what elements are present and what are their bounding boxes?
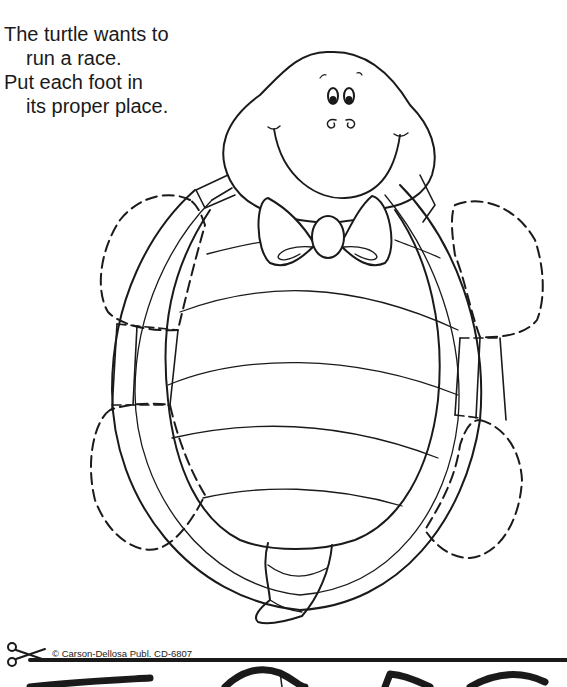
nostril-left [327, 119, 336, 127]
turtle-illustration [0, 0, 567, 687]
smile [274, 129, 400, 198]
foot-top-right [452, 201, 543, 337]
turtle-head [223, 52, 435, 223]
scissors-icon[interactable] [8, 643, 45, 666]
shell-body [165, 210, 458, 549]
bow-tie [258, 196, 391, 265]
next-page-shapes [30, 670, 545, 687]
foot-top-left [101, 195, 205, 330]
foot-bottom-left [91, 404, 205, 550]
nostril-right [346, 119, 355, 127]
copyright-credit: © Carson-Dellosa Publ. CD-6807 [52, 648, 192, 659]
tail [256, 543, 332, 623]
